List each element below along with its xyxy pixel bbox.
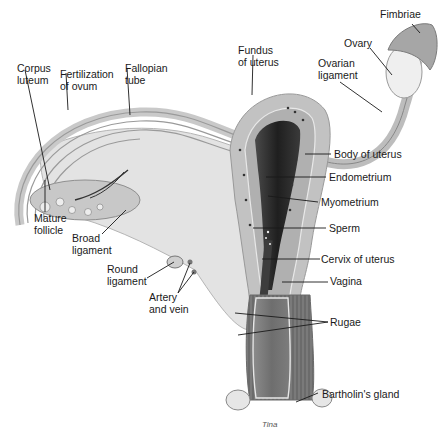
round-ligament-stub xyxy=(167,256,183,268)
label-vagina: Vagina xyxy=(330,275,362,287)
label-artery-and-vein: Artery and vein xyxy=(149,291,189,315)
broad-ligament-shape xyxy=(40,128,250,330)
label-rugae: Rugae xyxy=(330,316,361,328)
label-broad-ligament: Broad ligament xyxy=(72,232,112,256)
label-sperm: Sperm xyxy=(329,222,360,234)
vaginal-canal xyxy=(253,298,290,398)
label-fertilization-of-ovum: Fertilization of ovum xyxy=(60,68,114,92)
label-body-of-uterus: Body of uterus xyxy=(334,148,402,160)
label-ovary: Ovary xyxy=(344,37,372,49)
label-corpus-luteum: Corpus luteum xyxy=(17,62,51,86)
label-bartholins-gland: Bartholin's gland xyxy=(322,388,399,400)
label-endometrium: Endometrium xyxy=(329,171,391,183)
artist-signature: Tina xyxy=(262,419,278,431)
label-ovarian-ligament: Ovarian ligament xyxy=(318,57,358,81)
label-fundus-of-uterus: Fundus of uterus xyxy=(238,44,279,68)
label-fallopian-tube: Fallopian tube xyxy=(125,62,168,86)
label-myometrium: Myometrium xyxy=(321,196,379,208)
anatomy-illustration xyxy=(0,0,448,437)
label-round-ligament: Round ligament xyxy=(107,263,147,287)
bartholins-gland-left xyxy=(226,390,250,410)
label-mature-follicle: Mature follicle xyxy=(34,212,67,236)
label-fimbriae: Fimbriae xyxy=(380,8,421,20)
label-cervix-of-uterus: Cervix of uterus xyxy=(321,253,395,265)
